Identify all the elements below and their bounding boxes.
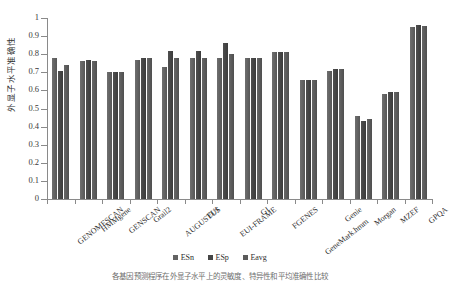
bar-group	[212, 18, 240, 199]
y-axis-tick-label-wrap: 0.3	[8, 145, 39, 146]
bar-eavg	[339, 69, 344, 199]
bar-esn	[52, 58, 57, 199]
legend-item: Eavg	[243, 253, 267, 262]
bar-esn	[107, 72, 112, 199]
bar-group	[267, 18, 295, 199]
chart-legend: ESnESpEavg	[0, 253, 440, 262]
x-axis-tick	[130, 200, 131, 204]
bar-group	[350, 18, 378, 199]
y-axis-tick-label-wrap: 0.4	[8, 127, 39, 128]
y-axis-tick-label: 0	[13, 194, 39, 203]
y-axis-tick-label-wrap: 0.1	[8, 181, 39, 182]
bar-eavg	[257, 58, 262, 199]
x-axis-tick	[47, 200, 48, 204]
bar-eavg	[312, 80, 317, 199]
y-axis-tick-label: 1	[13, 13, 39, 22]
y-axis-tick-label-wrap: 0.7	[8, 72, 39, 73]
bar-group	[322, 18, 350, 199]
bar-group	[47, 18, 75, 199]
x-axis-tick	[377, 200, 378, 204]
y-axis-tick-label-wrap: 0.5	[8, 109, 39, 110]
x-axis-tick	[295, 200, 296, 204]
x-axis-label: MZEF	[399, 205, 421, 225]
y-axis-tick-label: 0.8	[13, 49, 39, 58]
bar-esp	[58, 71, 63, 200]
x-axis-tick	[75, 200, 76, 204]
bar-esn	[382, 94, 387, 199]
x-axis-tick	[212, 200, 213, 204]
x-axis-tick	[102, 200, 103, 204]
bar-esn	[410, 27, 415, 199]
y-axis-tick-label-wrap: 0.8	[8, 54, 39, 55]
bar-group	[102, 18, 130, 199]
bar-eavg	[119, 72, 124, 199]
bar-esn	[245, 58, 250, 199]
bar-esn	[162, 67, 167, 199]
bar-esp	[168, 51, 173, 199]
x-axis-label: GPQA	[426, 205, 449, 226]
legend-item: ESp	[208, 253, 229, 262]
bar-esp	[361, 121, 366, 199]
bar-esp	[86, 60, 91, 199]
bar-eavg	[147, 58, 152, 199]
bar-eavg	[229, 54, 234, 199]
bar-esn	[272, 52, 277, 199]
legend-label: ESp	[216, 253, 229, 262]
legend-swatch-icon	[173, 255, 178, 260]
bar-esp	[333, 69, 338, 199]
bar-eavg	[174, 58, 179, 199]
x-axis-tick	[267, 200, 268, 204]
y-axis-tick-label: 0.1	[13, 176, 39, 185]
x-axis-tick	[350, 200, 351, 204]
bar-esn	[80, 61, 85, 199]
x-axis-tick	[157, 200, 158, 204]
y-axis-tick-label: 0.7	[13, 67, 39, 76]
bar-esn	[190, 58, 195, 199]
legend-label: ESn	[181, 253, 194, 262]
bar-eavg	[202, 58, 207, 199]
bar-esp	[278, 52, 283, 199]
bar-group	[240, 18, 268, 199]
x-axis-label: Morgan	[372, 205, 397, 228]
bar-group	[185, 18, 213, 199]
bar-esn	[217, 58, 222, 199]
bar-group	[157, 18, 185, 199]
y-axis-tick-label-wrap: 0.9	[8, 36, 39, 37]
bar-esp	[416, 25, 421, 199]
x-axis-label: GeneMark.hmm	[323, 217, 370, 257]
bar-esp	[141, 58, 146, 199]
bar-esp	[223, 43, 228, 199]
bar-esp	[251, 58, 256, 199]
legend-swatch-icon	[243, 255, 248, 260]
x-axis-tick	[240, 200, 241, 204]
bar-eavg	[367, 119, 372, 199]
bar-esp	[388, 92, 393, 199]
bar-esp	[306, 80, 311, 199]
bar-eavg	[92, 61, 97, 199]
y-axis-tick-label-wrap: 0.6	[8, 90, 39, 91]
x-axis-tick	[322, 200, 323, 204]
x-axis-label: FGENES	[290, 205, 319, 231]
bar-esn	[300, 80, 305, 199]
y-axis-tick-label: 0.2	[13, 158, 39, 167]
bar-eavg	[284, 52, 289, 199]
x-axis-tick	[405, 200, 406, 204]
legend-swatch-icon	[208, 255, 213, 260]
bar-esn	[355, 116, 360, 199]
bar-esn	[135, 60, 140, 199]
bar-group	[295, 18, 323, 199]
figure-caption: 各基因预测程序在外显子水平上的灵敏度、特异性和平均准确性比较	[0, 272, 440, 281]
x-axis-tick	[185, 200, 186, 204]
y-axis-tick-label: 0.5	[13, 104, 39, 113]
y-axis-tick-label: 0.9	[13, 31, 39, 40]
bar-esn	[327, 71, 332, 200]
bar-group	[75, 18, 103, 199]
bar-esp	[196, 51, 201, 199]
bar-group	[130, 18, 158, 199]
bar-eavg	[64, 65, 69, 199]
y-axis-tick-label-wrap: 0	[8, 199, 39, 200]
y-axis-tick-label: 0.4	[13, 122, 39, 131]
y-axis-tick-label: 0.3	[13, 140, 39, 149]
bar-group	[377, 18, 405, 199]
